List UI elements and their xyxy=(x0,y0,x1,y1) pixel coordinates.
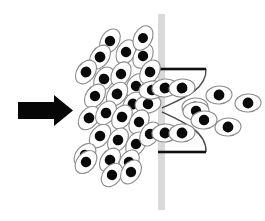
membrane-bar xyxy=(158,14,165,210)
nozzle-bar-lower xyxy=(158,151,206,154)
membrane-barrier xyxy=(158,14,165,210)
particle-flow-diagram xyxy=(0,0,265,221)
diagram-canvas xyxy=(0,0,265,221)
nozzle-bar-upper xyxy=(158,68,206,71)
